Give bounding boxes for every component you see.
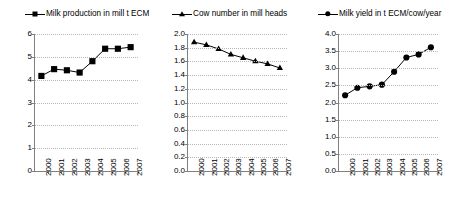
y-tick-label: 1.8 [174,44,185,52]
y-tick-mark [336,103,339,104]
gridline [188,144,287,145]
x-tick-label: 2002 [374,158,382,176]
data-point-square [64,67,70,73]
y-tick-label: 6 [28,30,32,38]
gridline [339,34,438,35]
plot-area-milk-production: 012345620002001200220032004200520062007 [34,34,138,172]
y-tick-label: 0.0 [325,167,336,175]
x-tick-label: 2004 [248,158,256,176]
y-tick-mark [336,51,339,52]
x-tick-label: 2007 [136,158,144,176]
gridline [35,80,138,81]
gridline [339,120,438,121]
data-point-square [115,46,121,52]
gridline [339,154,438,155]
triangle-marker-icon [172,10,192,19]
y-tick-mark [32,103,35,104]
data-point-square [102,46,108,52]
legend-label: Cow number in mill heads [193,9,287,19]
y-tick-label: 1.5 [325,116,336,124]
chart-panel-milk-production: 012345620002001200220032004200520062007 [0,26,152,222]
x-tick-label: 2006 [123,158,131,176]
gridline [339,85,438,86]
gridline [188,34,287,35]
y-tick-label: 5 [28,53,32,61]
x-tick-label: 2007 [285,158,293,176]
y-tick-label: 1.6 [174,57,185,65]
y-tick-mark [336,34,339,35]
y-tick-mark [185,144,188,145]
y-tick-mark [336,171,339,172]
y-tick-mark [32,171,35,172]
x-tick-label: 2006 [423,158,431,176]
data-point-circle [391,69,397,75]
y-tick-mark [185,61,188,62]
y-tick-mark [336,120,339,121]
y-tick-label: 3.0 [325,64,336,72]
x-tick-label: 2001 [58,158,66,176]
y-tick-label: 0.8 [174,112,185,120]
chart-figure: Milk production in mill t ECM Cow number… [0,0,457,222]
data-point-circle [342,92,348,98]
y-tick-mark [32,125,35,126]
y-tick-label: 0 [28,167,32,175]
x-tick-label: 2006 [272,158,280,176]
y-tick-mark [32,80,35,81]
gridline [188,48,287,49]
gridline [35,57,138,58]
x-tick-label: 2002 [223,158,231,176]
x-tick-label: 2004 [399,158,407,176]
y-tick-label: 0.5 [325,150,336,158]
y-tick-mark [185,157,188,158]
plot-area-milk-yield: 0.00.51.01.52.02.53.03.54.02000200120022… [338,34,438,172]
y-tick-mark [185,130,188,131]
y-tick-mark [336,137,339,138]
chart-panel-milk-yield: 0.00.51.01.52.02.53.03.54.02000200120022… [302,26,454,222]
legend-entry-milk-production: Milk production in mill t ECM [25,9,149,19]
gridline [188,130,287,131]
y-tick-label: 1 [28,144,32,152]
y-tick-mark [185,75,188,76]
y-tick-label: 0.0 [174,167,185,175]
y-tick-label: 2.0 [325,99,336,107]
x-tick-label: 2005 [411,158,419,176]
y-tick-mark [336,85,339,86]
data-point-triangle [191,39,197,45]
data-point-circle [403,54,409,60]
y-tick-label: 2.0 [174,30,185,38]
x-tick-label: 2007 [436,158,444,176]
data-point-square [77,69,83,75]
x-tick-label: 2001 [362,158,370,176]
y-tick-label: 1.2 [174,85,185,93]
x-tick-label: 2005 [110,158,118,176]
y-tick-label: 0.6 [174,126,185,134]
square-marker-icon [25,10,45,19]
y-tick-label: 2.5 [325,81,336,89]
y-tick-mark [336,154,339,155]
chart-panel-cow-number: 0.00.20.40.60.81.01.21.41.61.82.02000200… [151,26,303,222]
x-tick-label: 2000 [349,158,357,176]
x-tick-label: 2004 [97,158,105,176]
data-point-square [128,44,134,50]
gridline [188,89,287,90]
data-point-circle [416,51,422,57]
y-tick-mark [185,89,188,90]
y-tick-mark [185,116,188,117]
gridline [35,34,138,35]
data-point-square [89,58,95,64]
y-tick-label: 0.4 [174,140,185,148]
data-point-circle [428,44,434,50]
gridline [188,75,287,76]
y-tick-label: 3.5 [325,47,336,55]
y-tick-label: 3 [28,99,32,107]
gridline [35,148,138,149]
plot-area-cow-number: 0.00.20.40.60.81.01.21.41.61.82.02000200… [187,34,287,172]
x-tick-label: 2002 [71,158,79,176]
data-point-square [38,73,44,79]
y-tick-label: 4 [28,76,32,84]
legend-entry-milk-yield: Milk yield in t ECM/cow/year [318,9,441,19]
x-tick-label: 2003 [84,158,92,176]
data-point-square [51,66,57,72]
gridline [339,51,438,52]
gridline [35,125,138,126]
